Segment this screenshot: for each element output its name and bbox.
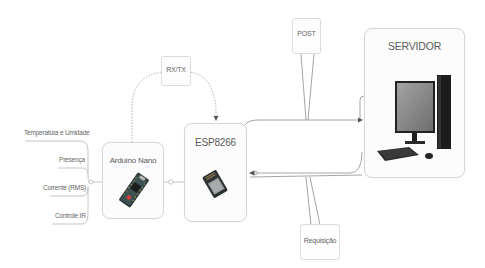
esp8266-title: ESP8266 — [185, 137, 246, 148]
post-label: POST — [292, 18, 321, 54]
rxtx-text: RX/TX — [166, 66, 186, 73]
requisicao-text: Requisição — [304, 237, 337, 244]
server-title: SERVIDOR — [365, 40, 464, 52]
arduino-nano-title: Arduino Nano — [103, 156, 163, 165]
requisicao-label: Requisição — [300, 224, 340, 260]
server-node: SERVIDOR — [364, 28, 465, 178]
post-text: POST — [297, 30, 315, 37]
desktop-computer-icon — [375, 71, 459, 163]
arduino-nano-node: Arduino Nano — [102, 142, 164, 219]
sensor-controle-ir: Controle IR — [55, 212, 86, 219]
arduino-nano-board-icon — [117, 171, 151, 209]
esp8266-module-icon — [200, 168, 230, 200]
sensor-corrente: Corrente (RMS) — [43, 184, 86, 191]
esp8266-node: ESP8266 — [184, 123, 247, 222]
rxtx-label: RX/TX — [161, 56, 191, 86]
diagram-canvas: Temperatura e Umidade Presença Corrente … — [0, 0, 485, 268]
sensor-temperatura-umidade: Temperatura e Umidade — [24, 129, 90, 136]
sensor-presenca: Presença — [59, 156, 85, 163]
